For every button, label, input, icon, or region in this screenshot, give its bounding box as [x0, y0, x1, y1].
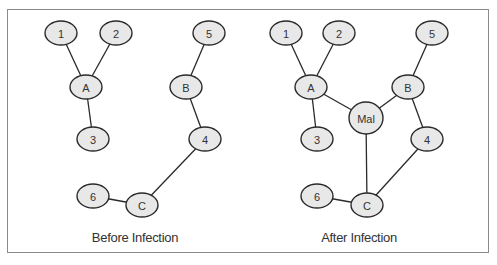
node-5: 5: [193, 21, 225, 45]
node-label: A: [307, 82, 315, 94]
node-label: 6: [314, 191, 320, 203]
node-label: C: [363, 200, 371, 212]
caption-before-infection: Before Infection: [92, 230, 178, 245]
node-c: C: [126, 193, 158, 217]
node-label: 4: [424, 134, 430, 146]
node-1: 1: [45, 21, 77, 45]
node-label: B: [182, 82, 189, 94]
node-label: 3: [90, 134, 96, 146]
node-5: 5: [416, 21, 448, 45]
node-6: 6: [77, 184, 109, 208]
node-label: 3: [314, 134, 320, 146]
node-2: 2: [100, 21, 132, 45]
node-label: A: [82, 82, 90, 94]
node-label: 1: [283, 28, 289, 40]
node-label: 1: [58, 28, 64, 40]
node-label: 2: [336, 28, 342, 40]
node-label: 4: [202, 134, 208, 146]
node-label: 6: [90, 191, 96, 203]
node-4: 4: [411, 127, 443, 151]
node-b: B: [170, 75, 202, 99]
node-a: A: [70, 75, 102, 99]
node-6: 6: [301, 184, 333, 208]
node-3: 3: [301, 127, 333, 151]
node-label: C: [138, 200, 146, 212]
before-infection-graph: 125AB346CBefore Infection: [45, 21, 225, 245]
node-label: Mal: [357, 113, 375, 125]
caption-after-infection: After Infection: [321, 230, 397, 245]
node-label: 5: [206, 28, 212, 40]
node-label: B: [404, 82, 411, 94]
after-infection-graph: 125ABMal346CAfter Infection: [270, 21, 448, 245]
node-4: 4: [189, 127, 221, 151]
node-2: 2: [323, 21, 355, 45]
node-3: 3: [77, 127, 109, 151]
node-label: 2: [113, 28, 119, 40]
node-a: A: [295, 75, 327, 99]
node-label: 5: [429, 28, 435, 40]
node-1: 1: [270, 21, 302, 45]
node-b: B: [392, 75, 424, 99]
network-infection-diagram: 125AB346CBefore Infection125ABMal346CAft…: [0, 0, 497, 265]
node-c: C: [351, 193, 383, 217]
node-mal: Mal: [349, 102, 383, 134]
